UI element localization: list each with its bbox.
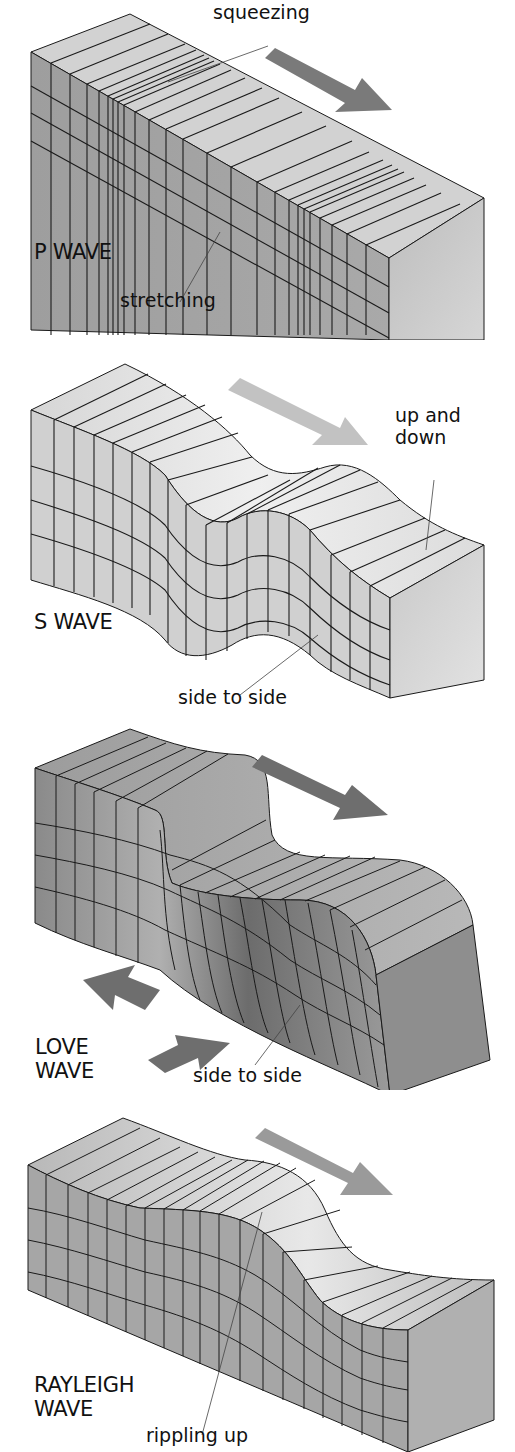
annotation-rippling-up: rippling up (146, 1425, 248, 1447)
p-wave-title: P WAVE (34, 240, 112, 264)
direction-of-travel-arrow-icon (228, 378, 368, 445)
annotation-squeezing: squeezing (213, 2, 310, 24)
love-wave-title: LOVE WAVE (35, 1035, 94, 1083)
annotation-side-to-side-love-wave: side to side (193, 1065, 302, 1087)
s-wave-title: S WAVE (34, 610, 112, 634)
annotation-side-to-side-s-wave: side to side (178, 687, 287, 709)
left-arrow-icon (83, 965, 160, 1010)
s-wave-panel: up and down S WAVE (0, 340, 515, 700)
direction-of-travel-arrow-icon (252, 755, 388, 820)
s-wave-block-illustration (0, 340, 515, 700)
love-wave-panel: LOVE WAVE side to side (0, 715, 515, 1090)
annotation-up-and-down: up and down (395, 405, 461, 449)
p-wave-panel: squeezing P WAVE stretching (0, 0, 515, 340)
p-wave-block-illustration (0, 0, 515, 340)
annotation-stretching: stretching (120, 290, 216, 312)
rayleigh-wave-title: RAYLEIGH WAVE (34, 1373, 134, 1421)
rayleigh-wave-panel: RAYLEIGH WAVE rippling up (0, 1090, 515, 1452)
love-wave-block-illustration (0, 715, 515, 1090)
